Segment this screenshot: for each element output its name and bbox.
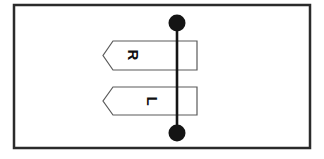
schematic-diagram: R L bbox=[0, 0, 324, 159]
upper-banner-arrow bbox=[103, 41, 197, 70]
top-node-dot bbox=[169, 15, 186, 32]
figure-canvas: R L bbox=[0, 0, 324, 159]
lower-banner-label: L bbox=[144, 96, 161, 105]
upper-banner-label: R bbox=[125, 50, 142, 61]
figure-background bbox=[0, 0, 324, 159]
bottom-node-dot bbox=[169, 125, 186, 142]
